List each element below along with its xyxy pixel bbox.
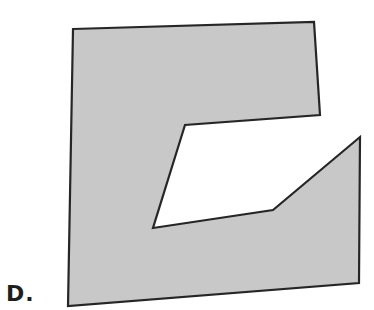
figure-canvas: D. <box>0 0 374 310</box>
gray-polygon-shape <box>68 22 360 306</box>
option-label: D. <box>6 282 35 306</box>
figure-diagram <box>0 0 374 310</box>
